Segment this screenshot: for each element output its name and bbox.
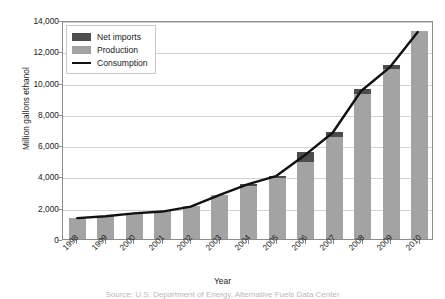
legend-swatch-production-icon	[72, 46, 91, 54]
y-axis-tick-mark	[57, 146, 62, 147]
y-axis-tick-label: 4,000	[13, 172, 59, 182]
y-axis-tick-mark	[57, 84, 62, 85]
y-axis-tick-label: 8,000	[13, 110, 59, 120]
legend-label-net-imports: Net imports	[97, 32, 141, 42]
y-axis-tick-label: 10,000	[13, 79, 59, 89]
legend-item-net-imports: Net imports	[72, 30, 148, 43]
source-caption: Source: U.S. Department of Energy, Alter…	[0, 290, 445, 299]
legend-swatch-consumption-icon	[72, 59, 91, 67]
legend-label-consumption: Consumption	[97, 58, 148, 68]
y-axis-tick-label: 2,000	[13, 204, 59, 214]
legend-item-production: Production	[72, 43, 148, 56]
x-axis-title: Year	[0, 276, 445, 286]
y-axis-tick-label: 14,000	[13, 16, 59, 26]
chart-legend: Net imports Production Consumption	[66, 25, 156, 74]
y-axis-tick-mark	[57, 52, 62, 53]
legend-swatch-net-imports-icon	[72, 33, 91, 41]
legend-item-consumption: Consumption	[72, 56, 148, 69]
y-axis-tick-mark	[57, 21, 62, 22]
y-axis-tick-label: 6,000	[13, 141, 59, 151]
y-axis-tick-mark	[57, 177, 62, 178]
y-axis-tick-label: 0	[13, 235, 59, 245]
y-axis-tick-mark	[57, 209, 62, 210]
y-axis-title: Million gallons ethanol	[22, 39, 31, 179]
y-axis-tick-mark	[57, 115, 62, 116]
y-axis-tick-mark	[57, 240, 62, 241]
y-axis-tick-label: 12,000	[13, 47, 59, 57]
legend-label-production: Production	[97, 45, 138, 55]
